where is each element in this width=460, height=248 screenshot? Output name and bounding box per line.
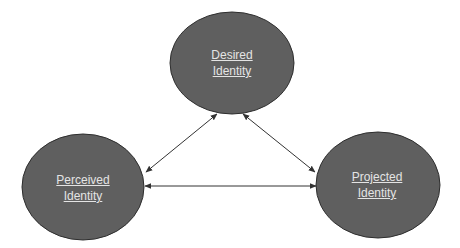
projected-identity-line1: Projected xyxy=(322,169,432,185)
desired-identity-label: Desired Identity xyxy=(177,47,287,79)
perceived-identity-label: Perceived Identity xyxy=(28,172,138,204)
projected-identity-line2: Identity xyxy=(322,185,432,201)
desired-identity-line1: Desired xyxy=(177,47,287,63)
desired-identity-line2: Identity xyxy=(177,63,287,79)
perceived-identity-line1: Perceived xyxy=(28,172,138,188)
projected-identity-label: Projected Identity xyxy=(322,169,432,201)
arrow-desired-projected xyxy=(243,114,315,172)
identity-diagram xyxy=(0,0,460,248)
perceived-identity-line2: Identity xyxy=(28,188,138,204)
arrow-desired-perceived xyxy=(146,114,217,172)
